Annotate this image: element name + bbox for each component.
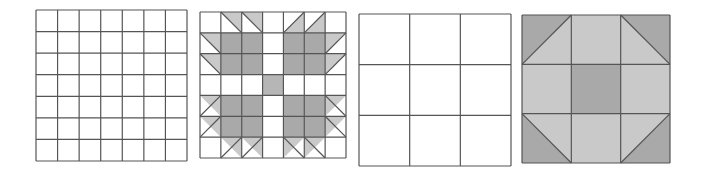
quilt-square [221,33,242,54]
quilt-square [571,15,620,64]
half-square-triangle [221,137,242,158]
quilt-square [263,75,284,96]
half-square-triangle [325,95,346,116]
quilt-square [263,116,284,137]
quilt-square [200,12,221,33]
half-square-triangle [325,33,346,54]
quilt-square [200,137,221,158]
half-square-triangle [200,95,221,116]
quilt-square [283,33,304,54]
bears-paw-quilt-block [199,11,347,159]
quilt-square [283,75,304,96]
quilt-square [304,116,325,137]
grid-3x3-empty-svg [358,13,512,167]
bears-paw-block-svg [199,11,347,159]
half-square-triangle [200,33,221,54]
half-square-triangle [621,15,670,64]
quilt-square [571,114,620,163]
quilt-square [242,75,263,96]
empty-7x7-grid [35,9,188,162]
half-square-triangle [522,114,571,163]
quilt-square [283,116,304,137]
half-square-triangle [200,54,221,75]
quilt-square [263,95,284,116]
shoofly-quilt-block [521,14,671,164]
quilt-square [283,54,304,75]
quilt-square [221,95,242,116]
half-square-triangle [283,12,304,33]
empty-3x3-grid [358,13,512,167]
half-square-triangle [304,137,325,158]
quilt-square [304,75,325,96]
shoofly-block-svg [521,14,671,164]
half-square-triangle [304,12,325,33]
quilt-square [263,12,284,33]
half-square-triangle [221,12,242,33]
quilt-square [304,33,325,54]
quilt-square [221,75,242,96]
quilt-square [200,75,221,96]
half-square-triangle [200,116,221,137]
quilt-square [221,116,242,137]
half-square-triangle [621,114,670,163]
quilt-square [242,33,263,54]
quilt-square [621,64,670,113]
quilt-square [304,54,325,75]
quilt-square [221,54,242,75]
quilt-square [242,54,263,75]
grid-7x7-empty-svg [35,9,188,162]
quilt-square [283,95,304,116]
quilt-square [304,95,325,116]
quilt-square [263,54,284,75]
half-square-triangle [325,116,346,137]
half-square-triangle [242,137,263,158]
quilt-square [571,64,620,113]
quilt-square [325,137,346,158]
quilt-square [325,75,346,96]
half-square-triangle [325,54,346,75]
quilt-square [263,137,284,158]
quilt-square [325,12,346,33]
quilt-square [263,33,284,54]
half-square-triangle [242,12,263,33]
half-square-triangle [522,15,571,64]
quilt-square [242,95,263,116]
quilt-square [522,64,571,113]
quilt-square [242,116,263,137]
half-square-triangle [283,137,304,158]
